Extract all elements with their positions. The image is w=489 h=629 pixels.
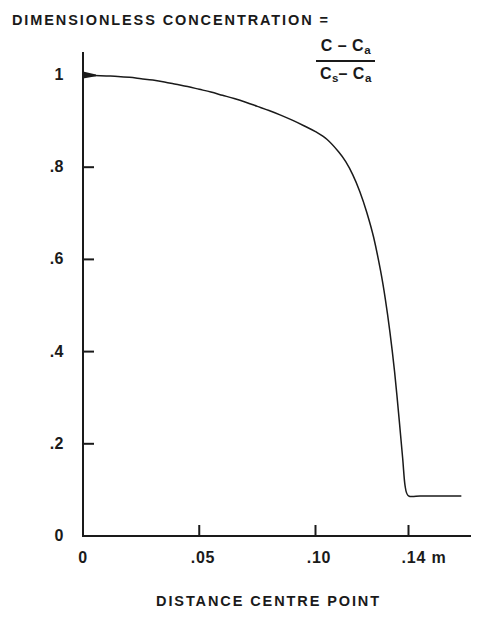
x-tick-label-014: .14 m [402,549,447,567]
axis-lines [83,53,470,536]
y-tick-label-1: 1 [18,66,64,84]
y-tick-label-02: .2 [18,435,64,453]
x-axis-title: DISTANCE CENTRE POINT [0,593,489,609]
figure-root: DIMENSIONLESS CONCENTRATION = C – Ca Cs–… [0,0,489,629]
x-tick-label-005: .05 [191,549,216,567]
y-tick-label-04: .4 [18,343,64,361]
y-tick-label-0: 0 [18,527,64,545]
x-tick-label-010: .10 [307,549,332,567]
curve-start-marker [83,72,96,79]
y-tick-label-08: .8 [18,158,64,176]
plot-canvas [0,0,489,629]
concentration-curve [83,75,461,497]
x-tick-label-0: 0 [78,549,88,567]
x-axis-ticks [199,525,408,536]
y-tick-label-06: .6 [18,250,64,268]
y-axis-ticks [83,75,94,444]
